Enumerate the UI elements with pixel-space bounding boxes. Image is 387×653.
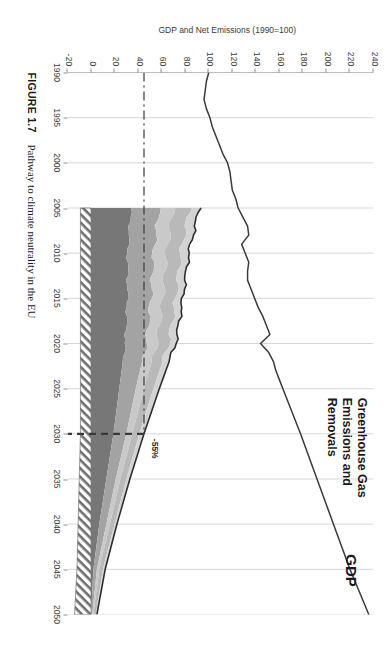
x-axis-tick-mark bbox=[63, 388, 67, 389]
y-axis-tick-mark bbox=[325, 68, 326, 72]
y-axis-tick-mark bbox=[184, 68, 185, 72]
x-axis-tick-label: 1995 bbox=[51, 101, 61, 133]
y-axis-tick-label: 160 bbox=[275, 36, 285, 66]
ghg-label-line-1: Greenhouse Gas bbox=[353, 397, 368, 497]
y-axis-tick-mark bbox=[160, 68, 161, 72]
x-axis-tick-label: 2010 bbox=[51, 237, 61, 269]
y-axis-tick-mark bbox=[113, 68, 114, 72]
gdp-annotation-label: GDP bbox=[342, 554, 359, 587]
y-axis-tick-label: 180 bbox=[298, 36, 308, 66]
y-axis-tick-label: 120 bbox=[228, 36, 238, 66]
y-axis-tick-label: 20 bbox=[110, 36, 120, 66]
y-axis-tick-label: 60 bbox=[157, 36, 167, 66]
y-axis-tick-mark bbox=[66, 68, 67, 72]
y-axis-tick-mark bbox=[301, 68, 302, 72]
x-axis-tick-mark bbox=[63, 614, 67, 615]
y-axis-tick-label: 100 bbox=[204, 36, 214, 66]
x-axis-tick-label: 2000 bbox=[51, 146, 61, 178]
x-axis-tick-mark bbox=[63, 524, 67, 525]
chart-canvas bbox=[67, 72, 373, 614]
figure-natural-orientation: GDP Greenhouse Gas Emissions and Removal… bbox=[0, 0, 387, 653]
x-axis-tick-mark bbox=[63, 479, 67, 480]
x-axis-tick-label: 2045 bbox=[51, 553, 61, 585]
figure-caption-text: Pathway to climate neutrality in the EU bbox=[25, 144, 37, 318]
x-axis-tick-mark bbox=[63, 343, 67, 344]
x-axis-tick-mark bbox=[63, 117, 67, 118]
x-axis-tick-label: 2020 bbox=[51, 327, 61, 359]
y-axis-tick-label: 40 bbox=[134, 36, 144, 66]
figure-page: GDP Greenhouse Gas Emissions and Removal… bbox=[0, 0, 387, 653]
ghg-label-line-3: Removals bbox=[323, 397, 338, 497]
x-axis-tick-mark bbox=[63, 433, 67, 434]
x-axis-tick-label: 1990 bbox=[51, 56, 61, 88]
x-axis-tick-label: 2005 bbox=[51, 192, 61, 224]
x-axis-tick-label: 2050 bbox=[51, 598, 61, 630]
y-axis-tick-mark bbox=[207, 68, 208, 72]
x-axis-tick-mark bbox=[63, 569, 67, 570]
y-axis-tick-mark bbox=[231, 68, 232, 72]
y-axis-tick-mark bbox=[372, 68, 373, 72]
x-axis-tick-mark bbox=[63, 253, 67, 254]
x-axis-tick-mark bbox=[63, 298, 67, 299]
x-axis-tick-label: 2035 bbox=[51, 463, 61, 495]
y-axis-tick-label: -20 bbox=[63, 36, 73, 66]
y-axis-tick-mark bbox=[348, 68, 349, 72]
ghg-annotation-label: Greenhouse Gas Emissions and Removals bbox=[323, 397, 368, 497]
y-axis-tick-label: 220 bbox=[345, 36, 355, 66]
y-axis-tick-label: 240 bbox=[369, 36, 379, 66]
y-axis-tick-mark bbox=[254, 68, 255, 72]
figure-caption: FIGURE 1.7 Pathway to climate neutrality… bbox=[25, 72, 37, 318]
figure-number: FIGURE 1.7 bbox=[25, 72, 37, 132]
x-axis-tick-mark bbox=[63, 208, 67, 209]
x-axis-tick-label: 2030 bbox=[51, 417, 61, 449]
y-axis-tick-mark bbox=[137, 68, 138, 72]
y-axis-tick-label: 0 bbox=[87, 36, 97, 66]
y-axis-tick-mark bbox=[90, 68, 91, 72]
y-axis-tick-label: 200 bbox=[322, 36, 332, 66]
y-axis-title: GDP and Net Emissions (1990=100) bbox=[158, 24, 296, 34]
target-annotation-label: -55% bbox=[150, 438, 160, 458]
y-axis-tick-label: 80 bbox=[181, 36, 191, 66]
y-axis-tick-label: 140 bbox=[251, 36, 261, 66]
x-axis-tick-mark bbox=[63, 162, 67, 163]
ghg-label-line-2: Emissions and bbox=[338, 397, 353, 497]
y-axis-tick-mark bbox=[278, 68, 279, 72]
x-axis-tick-label: 2015 bbox=[51, 282, 61, 314]
x-axis-tick-label: 2025 bbox=[51, 372, 61, 404]
x-axis-tick-mark bbox=[63, 72, 67, 73]
chart-plot-area bbox=[67, 72, 373, 614]
x-axis-tick-label: 2040 bbox=[51, 508, 61, 540]
